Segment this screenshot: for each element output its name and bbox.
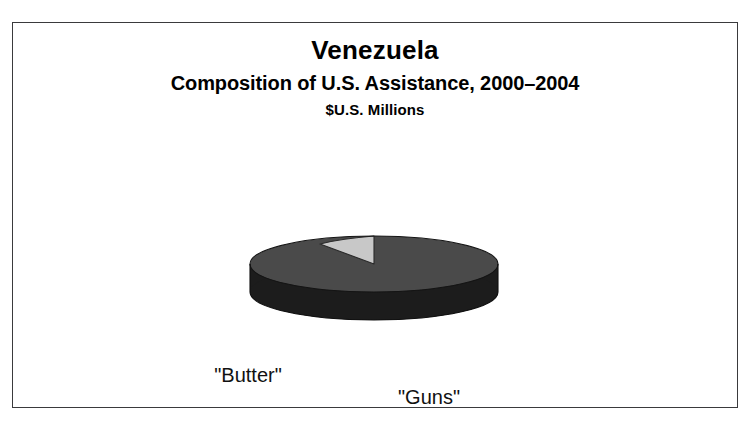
pie-chart-svg xyxy=(244,219,514,329)
chart-figure-frame: Venezuela Composition of U.S. Assistance… xyxy=(12,22,738,408)
pie-label-butter-name: "Butter" xyxy=(173,364,323,388)
chart-title-block: Venezuela Composition of U.S. Assistance… xyxy=(13,37,737,118)
chart-units-label: $U.S. Millions xyxy=(13,102,737,118)
pie-label-guns: "Guns" $30.48 94% xyxy=(361,339,497,428)
pie-label-guns-name: "Guns" xyxy=(361,386,497,410)
chart-subtitle: Composition of U.S. Assistance, 2000–200… xyxy=(13,73,737,94)
page-title: Venezuela xyxy=(13,37,737,64)
pie-chart xyxy=(244,219,514,329)
pie-label-butter: "Butter" $2.00, 6% xyxy=(173,317,323,428)
